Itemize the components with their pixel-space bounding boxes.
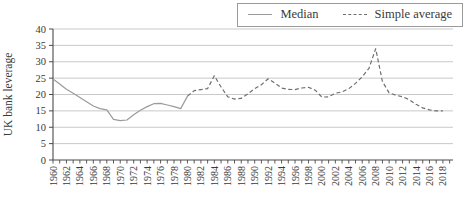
x-tick-label: 1988 xyxy=(236,166,247,186)
y-tick-label: 10 xyxy=(36,122,47,133)
x-tick-label: 1984 xyxy=(209,166,220,186)
y-tick-label: 20 xyxy=(36,89,47,100)
x-tick-label: 1974 xyxy=(142,166,153,186)
y-tick-label: 0 xyxy=(41,155,46,166)
x-tick-label: 1968 xyxy=(101,166,112,186)
y-tick-label: 25 xyxy=(36,73,47,84)
x-tick-label: 1982 xyxy=(195,166,206,186)
legend-item-median: Median xyxy=(248,7,318,22)
x-tick-label: 2018 xyxy=(437,166,448,186)
simple-average-line-sample-icon xyxy=(343,14,367,15)
x-tick-label: 2002 xyxy=(330,166,341,186)
x-tick-label: 1970 xyxy=(115,166,126,186)
median-line-sample-icon xyxy=(248,14,272,15)
chart-plot-area: 0510152025303540196019621964196619681970… xyxy=(0,0,465,201)
y-tick-label: 5 xyxy=(41,138,46,149)
x-tick-label: 1960 xyxy=(48,166,59,186)
series-simple-average xyxy=(188,49,443,111)
x-tick-label: 2004 xyxy=(343,166,354,186)
y-tick-label: 40 xyxy=(36,24,47,35)
x-tick-label: 1976 xyxy=(155,166,166,186)
x-tick-label: 2014 xyxy=(411,166,422,186)
y-tick-label: 30 xyxy=(36,56,47,67)
x-tick-label: 1996 xyxy=(290,166,301,186)
x-tick-label: 1992 xyxy=(263,166,274,186)
x-tick-label: 1972 xyxy=(128,166,139,186)
x-tick-label: 1986 xyxy=(222,166,233,186)
x-tick-label: 2012 xyxy=(397,166,408,186)
x-tick-label: 1990 xyxy=(249,166,260,186)
x-tick-label: 2010 xyxy=(384,166,395,186)
y-tick-label: 35 xyxy=(36,40,47,51)
x-tick-label: 1998 xyxy=(303,166,314,186)
chart-legend: Median Simple average xyxy=(237,3,463,27)
legend-label-simple-average: Simple average xyxy=(375,7,452,22)
x-tick-label: 1964 xyxy=(74,166,85,186)
series-median xyxy=(53,79,188,121)
x-tick-label: 2006 xyxy=(357,166,368,186)
x-tick-label: 2000 xyxy=(316,166,327,186)
x-tick-label: 2016 xyxy=(424,166,435,186)
uk-bank-leverage-chart: 0510152025303540196019621964196619681970… xyxy=(0,0,465,201)
x-tick-label: 1978 xyxy=(169,166,180,186)
x-tick-label: 1980 xyxy=(182,166,193,186)
legend-label-median: Median xyxy=(280,7,318,22)
y-axis-label: UK bank leverage xyxy=(2,53,15,137)
y-tick-label: 15 xyxy=(36,105,47,116)
x-tick-label: 1966 xyxy=(88,166,99,186)
legend-item-simple-average: Simple average xyxy=(343,7,452,22)
x-tick-label: 1962 xyxy=(61,166,72,186)
x-tick-label: 1994 xyxy=(276,166,287,186)
x-tick-label: 2008 xyxy=(370,166,381,186)
